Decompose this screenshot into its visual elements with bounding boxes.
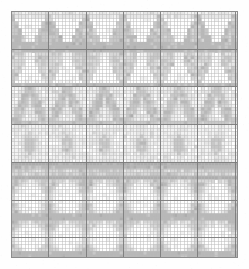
chart-grid-area[interactable] <box>11 11 238 258</box>
page-description: Faded scanned squared-paper chart filled… <box>0 0 1 1</box>
pattern-chart-sheet: Gridded pattern chart Faded scanned squa… <box>0 0 249 269</box>
pattern-heatmap-canvas <box>11 11 238 258</box>
page-title: Gridded pattern chart <box>0 0 1 1</box>
